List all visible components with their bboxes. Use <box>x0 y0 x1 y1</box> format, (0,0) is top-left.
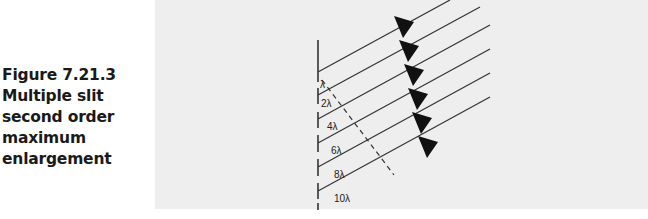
arrowhead-icon <box>404 64 424 86</box>
label-4-lambda: 4λ <box>327 121 338 132</box>
arrowhead-icon <box>394 16 414 38</box>
ray-5 <box>318 73 490 167</box>
ray-1 <box>318 0 450 72</box>
label-10-lambda: 10λ <box>334 193 350 204</box>
label-6-lambda: 6λ <box>331 145 342 156</box>
ray-3 <box>318 25 490 119</box>
label-2-lambda: 2λ <box>321 98 332 109</box>
arrowhead-icon <box>399 40 419 62</box>
label-1-lambda: λ <box>320 79 325 90</box>
multiple-slit-diagram: λ 2λ 4λ 6λ 8λ 10λ <box>0 0 648 219</box>
ray-4 <box>318 49 490 143</box>
arrowhead-icon <box>408 88 428 110</box>
arrowhead-icon <box>418 136 438 158</box>
label-8-lambda: 8λ <box>334 169 345 180</box>
ray-arrowheads <box>394 16 438 158</box>
